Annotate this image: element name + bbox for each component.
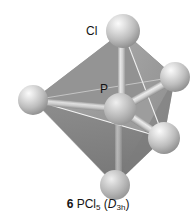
molecule-diagram: [0, 0, 196, 221]
atom-chlorine-axial-bottom: [100, 170, 130, 200]
atom-label-chlorine: Cl: [86, 25, 98, 37]
caption-formula-prefix: PCl: [77, 197, 96, 211]
molecular-structure-figure: Cl P 6 PCl5 (D3h): [0, 0, 196, 221]
atom-chlorine-equatorial-lower-right: [148, 122, 180, 154]
caption-close-paren: ): [125, 197, 129, 211]
atom-chlorine-axial-top: [106, 14, 140, 48]
atom-chlorine-equatorial-upper-right: [160, 62, 190, 92]
atom-label-phosphorus: P: [100, 83, 108, 95]
atom-chlorine-equatorial-left: [18, 85, 48, 115]
atom-phosphorus-center: [104, 93, 136, 125]
figure-caption: 6 PCl5 (D3h): [0, 198, 196, 213]
caption-open-paren: (: [100, 197, 107, 211]
